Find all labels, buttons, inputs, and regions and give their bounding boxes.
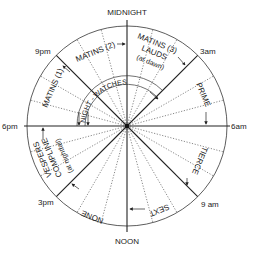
label-tierce: TIERCE <box>190 145 209 176</box>
label-matins-2: MATINS (2) <box>74 40 116 64</box>
label-noon: NOON <box>115 237 139 246</box>
label-9pm: 9pm <box>35 47 51 56</box>
label-sext: SEXT <box>148 202 171 218</box>
label-prime: PRIME <box>194 81 212 108</box>
center-dot <box>125 124 129 128</box>
label-none: NONE <box>80 208 105 225</box>
label-6am: 6am <box>231 122 247 131</box>
label-3am: 3am <box>200 47 216 56</box>
label-3pm: 3pm <box>38 198 54 207</box>
label-9am: 9 am <box>201 200 219 209</box>
label-matins-1: MATINS (1) <box>41 67 66 109</box>
canonical-hours-diagram: NIGHT - WATCHES MIDNIGHT NOON 3am 6am 9 … <box>0 0 258 256</box>
label-6pm: 6pm <box>2 122 18 131</box>
label-midnight: MIDNIGHT <box>107 8 147 17</box>
